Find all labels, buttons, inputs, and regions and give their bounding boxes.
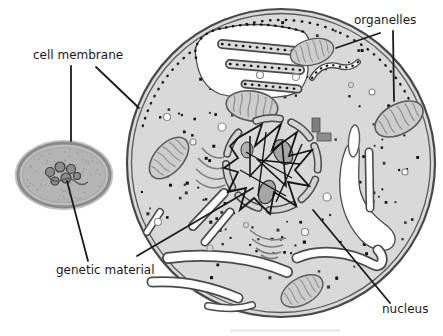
cell-membrane-label: cell membrane <box>33 48 123 62</box>
leader-cell-membrane-to-eukaryote <box>96 67 139 108</box>
organelles-label: organelles <box>354 13 416 27</box>
prokaryotic-cell <box>16 141 112 209</box>
nucleus-label: nucleus <box>382 302 428 316</box>
genetic-material-label: genetic material <box>56 263 155 277</box>
diagram-canvas: cell membrane organelles genetic materia… <box>0 0 443 336</box>
leader-organelles-right <box>393 31 394 101</box>
eukaryotic-cell <box>127 9 435 332</box>
scan-artifact <box>230 329 340 332</box>
